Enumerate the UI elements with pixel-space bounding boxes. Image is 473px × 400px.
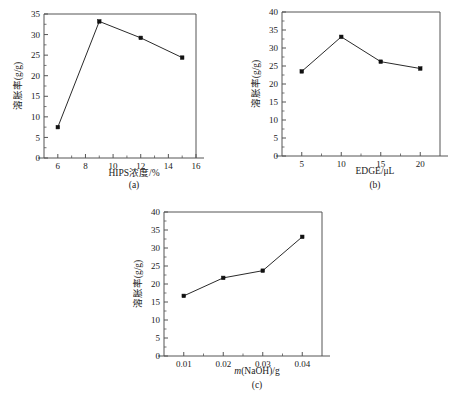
x-axis-title-rest: (NaOH)/g (241, 366, 280, 377)
y-tick-label: 10 (31, 112, 41, 122)
y-tick-label: 30 (269, 43, 279, 53)
x-tick-label: 0.01 (176, 359, 192, 369)
data-point-marker (139, 36, 143, 40)
y-tick-label: 25 (269, 61, 279, 71)
data-point-marker (300, 70, 304, 74)
panel-a: 051015202530356810121416溶胀率(g/g)HIPS浓度/%… (0, 0, 232, 200)
panel-caption: (a) (129, 180, 140, 191)
y-tick-label: 20 (151, 279, 161, 289)
series-line (58, 21, 182, 127)
y-tick-label: 5 (274, 133, 279, 143)
y-tick-label: 15 (151, 297, 161, 307)
chart-a-svg: 051015202530356810121416溶胀率(g/g)HIPS浓度/%… (0, 0, 232, 200)
data-point-marker (300, 235, 304, 239)
x-tick-label: 16 (192, 161, 202, 171)
plot-frame (44, 14, 196, 158)
panel-caption: (c) (252, 380, 263, 391)
x-tick-label: 0.04 (294, 359, 310, 369)
y-tick-label: 30 (31, 30, 41, 40)
data-point-marker (182, 294, 186, 298)
panel-c: 05101520253035400.010.020.030.04溶胀率(g/g)… (118, 196, 358, 400)
data-point-marker (261, 269, 265, 273)
x-axis-title: HIPS浓度/% (108, 167, 159, 178)
data-point-marker (339, 35, 343, 39)
plot-frame (282, 12, 440, 156)
y-tick-label: 10 (269, 115, 279, 125)
data-point-marker (56, 125, 60, 129)
chart-b-plot: 05101520253035405101520溶胀率(g/g)EDGE/μL(b… (250, 7, 448, 191)
data-point-marker (97, 20, 101, 24)
x-tick-label: 6 (56, 161, 61, 171)
y-tick-label: 15 (269, 97, 279, 107)
x-tick-label: 0.02 (215, 359, 231, 369)
y-tick-label: 0 (156, 351, 161, 361)
y-tick-label: 20 (31, 71, 41, 81)
y-tick-label: 35 (269, 25, 279, 35)
data-point-marker (180, 56, 184, 60)
chart-c-svg: 05101520253035400.010.020.030.04溶胀率(g/g)… (118, 196, 358, 400)
figure-three-panel-line-charts: 051015202530356810121416溶胀率(g/g)HIPS浓度/%… (0, 0, 473, 400)
panel-caption: (b) (369, 180, 380, 191)
x-tick-label: 20 (416, 159, 426, 169)
y-tick-label: 35 (31, 9, 41, 19)
chart-c-plot: 05101520253035400.010.020.030.04溶胀率(g/g)… (132, 207, 330, 391)
y-axis-title: 溶胀率(g/g) (12, 62, 24, 110)
y-tick-label: 5 (36, 133, 41, 143)
y-tick-label: 0 (36, 153, 41, 163)
y-tick-label: 15 (31, 91, 41, 101)
y-tick-label: 25 (151, 261, 161, 271)
y-tick-label: 25 (31, 50, 41, 60)
data-point-marker (379, 60, 383, 64)
x-tick-label: 5 (300, 159, 305, 169)
y-tick-label: 40 (151, 207, 161, 217)
y-axis-title: 溶胀率(g/g) (250, 60, 262, 108)
y-tick-label: 40 (269, 7, 279, 17)
plot-frame (164, 212, 322, 356)
x-axis-title: m(NaOH)/g (234, 366, 280, 377)
chart-a-plot: 051015202530356810121416溶胀率(g/g)HIPS浓度/%… (12, 9, 204, 191)
y-tick-label: 20 (269, 79, 279, 89)
series-line (184, 237, 303, 296)
y-tick-label: 30 (151, 243, 161, 253)
x-tick-label: 8 (83, 161, 88, 171)
x-axis-title: EDGE/μL (356, 166, 395, 176)
x-tick-label: 14 (164, 161, 174, 171)
x-tick-label: 10 (337, 159, 347, 169)
data-point-marker (418, 67, 422, 71)
chart-b-svg: 05101520253035405101520溶胀率(g/g)EDGE/μL(b… (236, 0, 473, 200)
y-tick-label: 5 (156, 333, 161, 343)
y-tick-label: 10 (151, 315, 161, 325)
data-point-marker (221, 276, 225, 280)
y-tick-label: 0 (274, 151, 279, 161)
y-axis-title: 溶胀率(g/g) (132, 260, 144, 308)
y-tick-label: 35 (151, 225, 161, 235)
panel-b: 05101520253035405101520溶胀率(g/g)EDGE/μL(b… (236, 0, 473, 200)
series-line (302, 37, 421, 72)
